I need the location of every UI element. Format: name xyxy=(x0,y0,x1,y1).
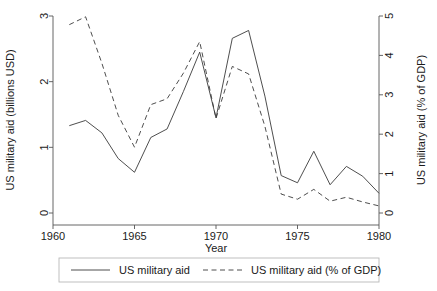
legend-label-0: US military aid xyxy=(119,264,190,276)
left-tick-label: 2 xyxy=(38,79,50,85)
right-axis-ticks: 012345 xyxy=(379,13,395,216)
series-line-us-military-aid-pct-gdp xyxy=(69,17,379,206)
right-tick-label: 4 xyxy=(383,52,395,58)
bottom-tick-label: 1970 xyxy=(204,230,228,242)
left-tick-label: 3 xyxy=(38,13,50,19)
axes-group xyxy=(53,16,379,225)
left-axis-ticks: 0123 xyxy=(38,13,53,216)
series-line-us-military-aid xyxy=(69,30,379,193)
right-tick-label: 5 xyxy=(383,13,395,19)
chart-legend: US military aid US military aid (% of GD… xyxy=(59,258,381,282)
line-chart-canvas: 0123 012345 19601965197019751980 US mili… xyxy=(0,0,437,291)
left-tick-label: 0 xyxy=(38,210,50,216)
y-axis-title: US military aid (billions USD) xyxy=(4,49,16,190)
bottom-tick-label: 1975 xyxy=(285,230,309,242)
bottom-tick-label: 1980 xyxy=(367,230,391,242)
right-tick-label: 1 xyxy=(383,171,395,177)
bottom-axis-ticks: 19601965197019751980 xyxy=(41,225,391,242)
right-tick-label: 2 xyxy=(383,131,395,137)
bottom-tick-label: 1960 xyxy=(41,230,65,242)
x-axis-title: Year xyxy=(205,242,228,254)
left-tick-label: 1 xyxy=(38,144,50,150)
right-tick-label: 0 xyxy=(383,210,395,216)
right-tick-label: 3 xyxy=(383,92,395,98)
data-series-group xyxy=(69,17,379,206)
legend-label-1: US military aid (% of GDP) xyxy=(251,264,381,276)
y2-axis-title: US military aid (% of GDP) xyxy=(415,55,427,185)
chart-figure: 0123 012345 19601965197019751980 US mili… xyxy=(0,0,437,291)
bottom-tick-label: 1965 xyxy=(122,230,146,242)
